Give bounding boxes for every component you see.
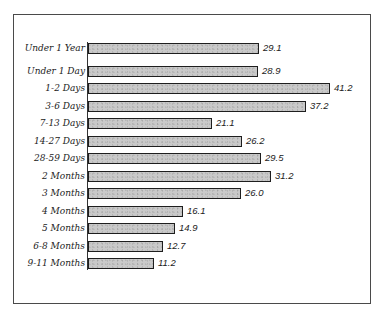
bar-row: 2 Months31.2 [0,171,385,182]
value-label: 37.2 [310,100,329,112]
category-label: 5 Months [42,222,85,234]
value-label: 12.7 [167,240,186,252]
bar [88,258,154,269]
category-label: 3 Months [42,187,85,199]
category-label: 7-13 Days [40,117,85,129]
bar-row: 1-2 Days41.2 [0,83,385,94]
bar [88,241,163,252]
category-label: Under 1 Day [27,65,85,77]
category-label: 9-11 Months [27,257,85,269]
category-label: 6-8 Months [33,240,85,252]
value-label: 31.2 [275,170,294,182]
bar-row: 5 Months14.9 [0,223,385,234]
value-label: 21.1 [216,117,235,129]
bar [88,118,212,129]
bar-row: 28-59 Days29.5 [0,153,385,164]
bar [88,83,330,94]
bar [88,223,175,234]
bar [88,188,241,199]
value-label: 11.2 [158,257,176,269]
bar-row: 7-13 Days21.1 [0,118,385,129]
bar-row: 9-11 Months11.2 [0,258,385,269]
value-label: 26.0 [245,187,264,199]
value-label: 26.2 [246,135,265,147]
bar-row: 6-8 Months12.7 [0,241,385,252]
bar-row: 4 Months16.1 [0,206,385,217]
category-label: 1-2 Days [45,82,85,94]
value-label: 28.9 [262,65,281,77]
bar [88,153,261,164]
category-label: 28-59 Days [34,152,85,164]
bar [88,43,259,54]
value-label: 14.9 [179,222,198,234]
category-label: 2 Months [42,170,85,182]
bar-row: Under 1 Year29.1 [0,43,385,54]
bar [88,136,242,147]
bar [88,206,183,217]
value-label: 16.1 [187,205,206,217]
category-label: 3-6 Days [45,100,85,112]
bar [88,66,258,77]
value-label: 29.5 [265,152,284,164]
bar [88,171,271,182]
category-label: Under 1 Year [25,42,85,54]
bar-row: 3 Months26.0 [0,188,385,199]
value-label: 41.2 [334,82,353,94]
category-label: 14-27 Days [34,135,85,147]
bar [88,101,306,112]
category-label: 4 Months [42,205,85,217]
bar-row: 3-6 Days37.2 [0,101,385,112]
bar-row: Under 1 Day28.9 [0,66,385,77]
value-label: 29.1 [263,42,282,54]
bar-row: 14-27 Days26.2 [0,136,385,147]
